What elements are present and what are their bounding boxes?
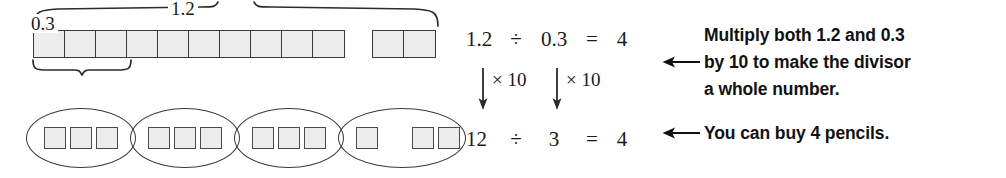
strip-cell: [189, 31, 220, 57]
strip-cell: [313, 31, 344, 57]
divisor-whole: 3: [534, 126, 574, 152]
group-square: [96, 127, 118, 149]
group-square: [70, 127, 92, 149]
explanation-note-2-text: You can buy 4 pencils.: [704, 120, 889, 147]
strip-cell: [251, 31, 282, 57]
diagram-canvas: 1.2 0.3: [0, 0, 1006, 178]
multiplier-label: × 10: [492, 68, 526, 89]
explanation-note-2: You can buy 4 pencils.: [660, 120, 889, 147]
explanation-line: by 10 to make the divisor: [704, 49, 911, 76]
quotient-decimal: 4: [612, 26, 632, 52]
group-square: [304, 127, 326, 149]
explanation-line: You can buy 4 pencils.: [704, 120, 889, 147]
strip-cell: [220, 31, 251, 57]
explanation-line: a whole number.: [704, 76, 911, 103]
strip-cell: [96, 31, 127, 57]
dividend-whole: 12: [466, 126, 500, 152]
group-square: [412, 127, 434, 149]
quotient-whole: 4: [612, 126, 632, 152]
top-strip-main: [33, 30, 345, 58]
left-arrow-icon: [660, 50, 704, 74]
strip-cell: [34, 31, 65, 57]
group-square: [200, 127, 222, 149]
group-square: [438, 127, 460, 149]
down-arrow-icon: [478, 68, 492, 112]
brace-group-0-3: [30, 60, 134, 76]
group-square: [356, 127, 378, 149]
equals-sign: =: [582, 126, 602, 152]
left-arrow-icon: [660, 121, 704, 145]
down-arrow-icon: [552, 68, 566, 112]
equation-block: 1.2 ÷ 0.3 = 4 × 10 × 10: [466, 26, 666, 156]
brace-group-label: 0.3: [28, 14, 58, 33]
dividend-decimal: 1.2: [466, 26, 500, 52]
strip-cell: [373, 31, 404, 57]
top-strip-extra: [372, 30, 436, 58]
group-square: [148, 127, 170, 149]
explanation-note-1-text: Multiply both 1.2 and 0.3 by 10 to make …: [704, 22, 911, 103]
explanation-note-1: Multiply both 1.2 and 0.3 by 10 to make …: [660, 22, 911, 103]
brace-total-1-2: [30, 2, 442, 28]
strip-cell: [282, 31, 313, 57]
divide-sign: ÷: [506, 26, 526, 52]
strip-cell: [158, 31, 189, 57]
strip-cell: [404, 31, 435, 57]
equation-row-whole: 12 ÷ 3 = 4: [466, 126, 666, 152]
group-square: [252, 127, 274, 149]
group-square: [174, 127, 196, 149]
equation-row-decimal: 1.2 ÷ 0.3 = 4: [466, 26, 666, 52]
divide-sign: ÷: [506, 126, 526, 152]
group-square: [44, 127, 66, 149]
strip-cell: [127, 31, 158, 57]
strip-cell: [65, 31, 96, 57]
brace-total-label: 1.2: [168, 0, 198, 18]
multiplier-label: × 10: [566, 68, 600, 89]
equals-sign: =: [582, 26, 602, 52]
multiplier-annotation-divisor: × 10: [552, 68, 600, 112]
group-square: [278, 127, 300, 149]
multiplier-annotation-dividend: × 10: [478, 68, 526, 112]
divisor-decimal: 0.3: [534, 26, 574, 52]
explanation-line: Multiply both 1.2 and 0.3: [704, 22, 911, 49]
